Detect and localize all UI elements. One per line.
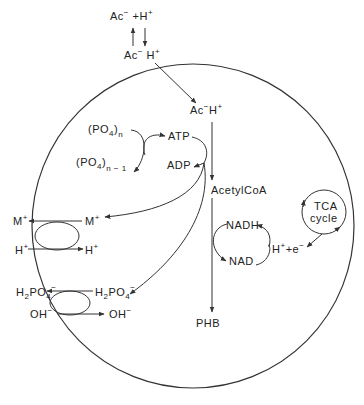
acetylcoa-label: AcetylCoA	[211, 184, 267, 196]
tca-label-line2: cycle	[310, 212, 338, 224]
phosphate-out-label: H2PO4−	[16, 283, 56, 301]
atp-label: ATP	[168, 130, 190, 142]
polyphosphate-n: (PO4)n	[88, 123, 123, 139]
cation-out-label: M+	[13, 213, 28, 227]
acetate-metabolism-diagram: Ac− +H+ Ac− H+ Ac−H+ AcetylCoA PHB (PO4)…	[0, 0, 364, 405]
adp-arrow	[194, 163, 204, 167]
atp-to-adp-curve	[192, 137, 207, 163]
tca-electron-arrow	[307, 234, 322, 247]
nad-reduction-arc	[256, 245, 270, 265]
cation-antiporter	[35, 222, 79, 250]
cation-in-label: M+	[85, 213, 100, 227]
nadh-oxidation-arc	[213, 224, 227, 261]
atp-formation-arrow	[144, 135, 165, 155]
outside-acetate-dissociated: Ac− +H+	[110, 8, 153, 22]
inside-acetate: Ac−H+	[190, 102, 223, 116]
phosphate-in-label: H2PO4−	[95, 283, 135, 301]
h-plus-electron-label: H++e−	[272, 241, 304, 255]
polyphosphate-consumption-arrow	[131, 130, 144, 172]
polyphosphate-n-minus-1: (PO4)n − 1	[76, 156, 127, 173]
nad-label: NAD	[229, 255, 254, 267]
nadh-label: NADH	[226, 219, 259, 231]
phosphate-antiporter	[50, 291, 90, 315]
tca-cycle-arrow-top	[303, 200, 304, 207]
acetate-uptake-arrow	[155, 63, 196, 103]
hydroxide-in-label: OH−	[109, 306, 132, 320]
proton-in-label: H+	[85, 242, 99, 256]
phb-label: PHB	[196, 317, 220, 329]
adp-label: ADP	[167, 159, 191, 171]
hydroxide-out-label: OH−	[30, 306, 53, 320]
proton-out-label: H+	[15, 242, 29, 256]
tca-label-line1: TCA	[314, 200, 338, 212]
atp-to-phosphate-arrow	[130, 163, 205, 294]
outside-acetate-undissociated: Ac− H+	[124, 47, 160, 61]
